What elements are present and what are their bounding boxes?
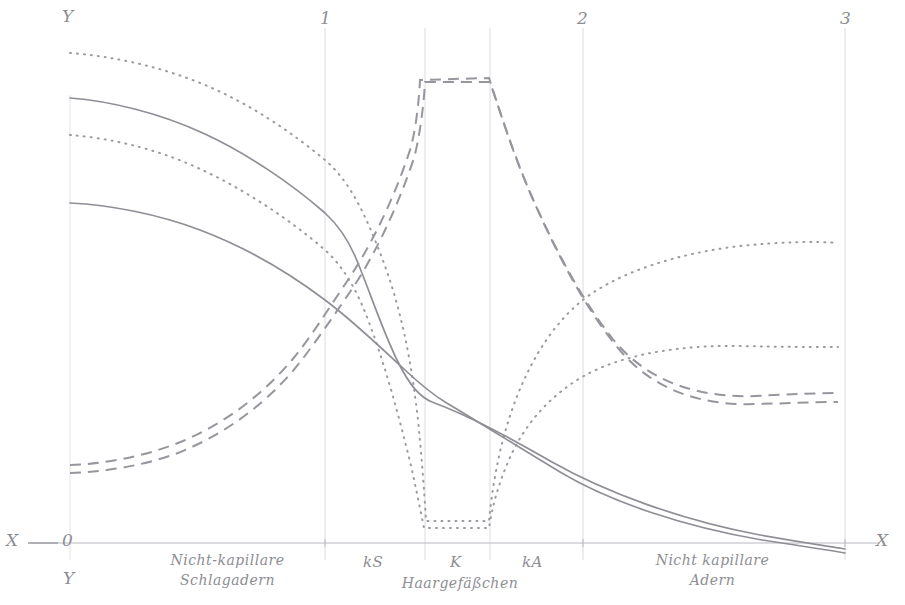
segment-label-K: K: [450, 553, 462, 571]
curve-group-dashed: [70, 78, 838, 473]
curve-group-dotted: [70, 53, 838, 528]
y-axis-top-label: Y: [62, 6, 74, 26]
x-tick-label-3: 3: [840, 8, 851, 28]
region-label-capillaries: Haargefäßchen: [370, 573, 550, 593]
x-axis-right-label: X: [876, 530, 889, 550]
region-label-capillaries-line1: Haargefäßchen: [370, 573, 550, 593]
curve-velocity-upper-solid: [70, 98, 845, 549]
curve-pressure-lower-dotted: [70, 135, 838, 528]
segment-label-kA: kA: [522, 553, 543, 571]
region-label-arteries-line1: Nicht-kapillare: [140, 550, 315, 570]
x-axis-left-label: X: [6, 530, 19, 550]
region-label-veins-line1: Nicht kapillare: [625, 550, 800, 570]
region-label-veins-line2: Adern: [625, 570, 800, 590]
segment-label-kS: kS: [363, 553, 383, 571]
gridlines: [70, 28, 845, 560]
origin-label: 0: [62, 530, 73, 550]
curve-velocity-lower-solid: [70, 203, 845, 553]
y-axis-bottom-label: Y: [63, 568, 75, 588]
curve-cross-section-lower-dashed: [70, 82, 838, 473]
x-tick-label-1: 1: [320, 8, 331, 28]
x-tick-label-2: 2: [577, 8, 588, 28]
region-label-arteries-line2: Schlagadern: [140, 570, 315, 590]
region-label-arteries: Nicht-kapillare Schlagadern: [140, 550, 315, 591]
region-label-veins: Nicht kapillare Adern: [625, 550, 800, 591]
curve-group-solid: [70, 98, 845, 553]
vascular-distribution-chart: [0, 0, 905, 605]
